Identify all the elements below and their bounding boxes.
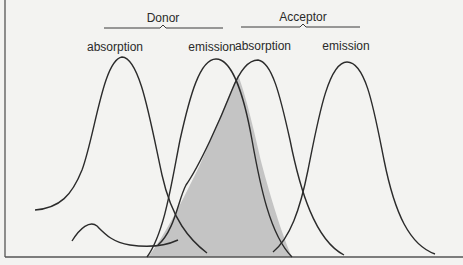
acceptor-absorption-label: absorption	[235, 39, 291, 53]
acceptor-emission-curve	[273, 62, 435, 254]
donor-emission-label: emission	[188, 40, 235, 54]
donor-label: Donor	[147, 11, 180, 25]
fret-spectral-overlap-diagram: Donor Acceptor absorption emission absor…	[0, 0, 463, 265]
diagram-canvas: Donor Acceptor absorption emission absor…	[0, 0, 463, 265]
acceptor-label: Acceptor	[279, 10, 326, 24]
acceptor-brace	[241, 24, 360, 27]
donor-absorption-label: absorption	[87, 40, 143, 54]
acceptor-emission-label: emission	[322, 39, 369, 53]
donor-brace	[104, 25, 223, 28]
